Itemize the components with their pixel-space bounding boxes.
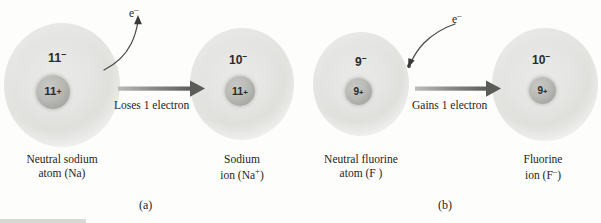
sodium-atom-nucleus: 11+ bbox=[36, 75, 70, 109]
electron-arriving-arrow bbox=[407, 24, 455, 68]
sodium-ion-nucleus: 11+ bbox=[225, 76, 255, 106]
loses-electron-label: Loses 1 electron bbox=[114, 99, 189, 111]
fluorine-ion-electron-count: 10– bbox=[532, 52, 550, 66]
fluorine-ion-caption: Fluorine ion (F–) bbox=[484, 152, 601, 183]
fluorine-atom-nucleus: 9+ bbox=[345, 78, 372, 105]
fluorine-incoming-electron-label: e– bbox=[452, 10, 462, 25]
panel-letter-b: (b) bbox=[438, 198, 452, 213]
gains-electron-label: Gains 1 electron bbox=[412, 99, 487, 111]
fluorine-atom-caption: Neutral fluorine atom (F ) bbox=[300, 152, 422, 181]
fluorine-ion-nucleus: 9+ bbox=[529, 77, 556, 104]
reaction-arrow-fluorine bbox=[415, 81, 501, 97]
sodium-ion-caption: Sodium ion (Na+) bbox=[182, 152, 302, 183]
panel-letter-a: (a) bbox=[139, 198, 152, 213]
sodium-ion-electron-count: 10– bbox=[229, 52, 247, 66]
sodium-atom-electron-count: 11– bbox=[48, 50, 66, 65]
sodium-atom-caption: Neutral sodium atom (Na) bbox=[0, 152, 124, 181]
ion-formation-figure: 11– 11+ Neutral sodium atom (Na) 10– 11+… bbox=[0, 0, 601, 223]
sodium-escaping-electron-label: e– bbox=[129, 4, 139, 19]
page-edge-artifact bbox=[0, 219, 86, 223]
fluorine-atom-electron-count: 9– bbox=[355, 54, 366, 68]
